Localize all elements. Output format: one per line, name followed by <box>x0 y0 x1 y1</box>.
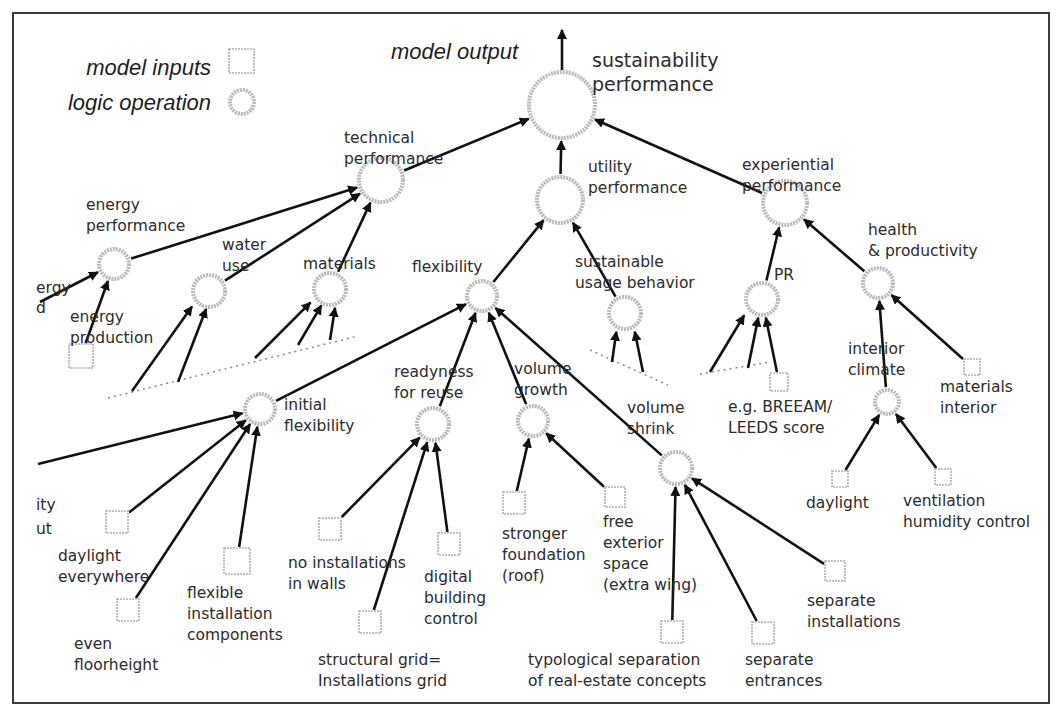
node-label: flexibility <box>412 258 483 276</box>
node-flexinst: flexibleinstallationcomponents <box>187 548 283 644</box>
node-label: exterior <box>603 534 664 552</box>
edge-arrow-entrances-to-shrink <box>685 485 757 621</box>
logic-operation-circle-icon <box>537 177 583 223</box>
node-typo: typological separationof real-estate con… <box>528 621 706 690</box>
node-shrink: volumeshrink <box>627 399 692 484</box>
node-eprod: energyproduction <box>69 308 153 368</box>
model-input-square-icon <box>832 471 848 487</box>
node-label: performance <box>344 150 443 168</box>
model-input-square-icon <box>964 359 980 375</box>
node-label: flexible <box>187 584 243 602</box>
node-label: daylight <box>58 547 121 565</box>
edge-arrow-to-water <box>132 306 192 391</box>
sustainability-model-diagram: model inputs logic operation model outpu… <box>0 0 1059 714</box>
model-input-square-icon <box>229 49 254 73</box>
node-label: experiential <box>742 156 834 174</box>
node-label: space <box>603 555 648 573</box>
node-foundation: strongerfoundation(roof) <box>502 492 586 585</box>
edge-arrow-to-pr <box>710 315 744 372</box>
model-input-square-icon <box>106 511 128 533</box>
node-label: materials <box>940 378 1013 396</box>
node-breeam: e.g. BREEAM/LEEDS score <box>728 373 833 437</box>
model-input-square-icon <box>69 344 93 368</box>
node-climate: interiorclimate <box>848 340 905 414</box>
node-pr: PR <box>746 266 794 315</box>
edge-arrow-to-pr <box>748 318 758 368</box>
edge-arrow-grid-to-reuse <box>374 442 427 610</box>
node-usage: sustainableusage behavior <box>575 253 695 329</box>
node-label: water <box>222 236 267 254</box>
cropped-label: ergy <box>36 279 71 297</box>
node-label: energy <box>70 308 124 326</box>
node-growth: volumegrowth <box>514 360 571 436</box>
node-label: interior <box>848 340 905 358</box>
node-exterior: freeexteriorspace(extra wing) <box>603 487 697 594</box>
node-label: initial <box>284 396 327 414</box>
node-label: even <box>74 635 112 653</box>
node-label: separate <box>807 592 875 610</box>
model-input-square-icon <box>359 611 381 633</box>
node-label: energy <box>86 196 140 214</box>
node-initflex: initialflexibility <box>245 394 355 435</box>
logic-operation-circle-icon <box>193 275 225 307</box>
node-daylight: daylight <box>806 471 869 512</box>
legend-logic-label: logic operation <box>68 90 211 115</box>
model-input-square-icon <box>117 599 139 621</box>
node-label: humidity control <box>903 513 1030 531</box>
node-label: utility <box>588 158 632 176</box>
node-label: installations <box>807 613 901 631</box>
partial-labels: ergydityut <box>36 279 71 538</box>
node-label: entrances <box>745 672 822 690</box>
node-label: Installations grid <box>318 672 447 690</box>
edge-arrow-to-usage <box>612 332 616 362</box>
node-label: components <box>187 626 283 644</box>
logic-operation-circle-icon <box>467 281 497 311</box>
node-health: health& productivity <box>863 221 978 298</box>
edge-arrow-health-to-exper <box>804 219 864 271</box>
cropped-label: ut <box>36 520 52 538</box>
node-label: free <box>603 513 634 531</box>
logic-operation-circle-icon <box>609 297 641 329</box>
logic-operation-circle-icon <box>529 72 595 138</box>
logic-operation-circle-icon <box>230 90 254 114</box>
edge-arrow-flexinst-to-initflex <box>239 427 257 547</box>
edge-arrow-breeam-to-pr <box>766 318 777 372</box>
logic-operation-circle-icon <box>863 268 893 298</box>
node-flex: flexibility <box>412 258 497 311</box>
node-label: performance <box>588 179 687 197</box>
node-materials: materials <box>303 255 376 305</box>
logic-operation-circle-icon <box>245 394 275 424</box>
edge-arrow-to-initflex <box>38 413 243 464</box>
node-digital: digitalbuildingcontrol <box>424 533 486 628</box>
node-label: building <box>424 589 486 607</box>
node-label: volume <box>627 399 684 417</box>
node-label: performance <box>592 73 714 95</box>
node-label: (roof) <box>502 567 545 585</box>
model-output: model output <box>391 30 562 70</box>
edge-arrow-to-materials <box>255 302 311 358</box>
node-reuse: readynessfor reuse <box>394 363 474 440</box>
node-water: wateruse <box>193 236 267 307</box>
node-label: structural grid= <box>318 651 441 669</box>
model-input-square-icon <box>752 622 774 644</box>
node-entrances: separateentrances <box>745 622 822 690</box>
cropped-label: d <box>36 299 46 317</box>
model-input-square-icon <box>770 373 788 391</box>
node-label: readyness <box>394 363 474 381</box>
edge-arrow-digital-to-reuse <box>436 443 448 532</box>
node-label: typological separation <box>528 651 700 669</box>
node-label: usage behavior <box>575 274 695 292</box>
node-label: LEEDS score <box>728 419 825 437</box>
node-label: shrink <box>627 420 674 438</box>
node-label: everywhere <box>58 568 149 586</box>
model-input-square-icon <box>935 469 951 485</box>
node-label: (extra wing) <box>603 576 697 594</box>
node-label: PR <box>774 266 794 284</box>
node-label: foundation <box>502 546 586 564</box>
node-label: ventilation <box>903 492 985 510</box>
node-label: performance <box>86 217 185 235</box>
node-energyperf: energyperformance <box>86 196 185 279</box>
model-input-square-icon <box>605 487 625 507</box>
node-label: separate <box>745 651 813 669</box>
edge-arrow-daylight_e-to-initflex <box>129 420 246 512</box>
